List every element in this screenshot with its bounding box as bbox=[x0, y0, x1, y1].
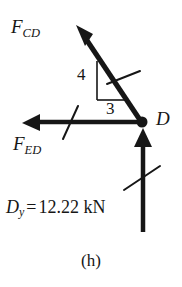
figure-caption: (h) bbox=[0, 252, 182, 269]
label-force-ed: FED bbox=[13, 134, 41, 156]
joint-node-d bbox=[137, 117, 148, 128]
label-reaction-equals: = bbox=[24, 197, 38, 217]
label-joint-d: D bbox=[156, 109, 170, 128]
label-force-cd: FCD bbox=[11, 17, 40, 39]
free-body-diagram-figure: FCD FED D 4 3 Dy=12.22 kN (h) bbox=[0, 0, 182, 287]
label-slope-run: 3 bbox=[106, 100, 115, 117]
label-force-cd-symbol: F bbox=[11, 16, 23, 37]
label-reaction-dy: Dy=12.22 kN bbox=[6, 198, 105, 219]
force-vector-dy bbox=[124, 128, 160, 232]
label-slope-rise: 4 bbox=[77, 66, 86, 83]
dy-arrowhead bbox=[134, 128, 152, 147]
label-force-ed-symbol: F bbox=[13, 133, 25, 154]
label-force-ed-subscript: ED bbox=[25, 143, 42, 157]
label-force-cd-subscript: CD bbox=[23, 26, 40, 40]
fed-arrowhead bbox=[22, 114, 40, 131]
label-reaction-unit: kN bbox=[83, 197, 105, 217]
label-reaction-symbol: D bbox=[6, 197, 19, 217]
label-reaction-value: 12.22 bbox=[38, 197, 79, 217]
